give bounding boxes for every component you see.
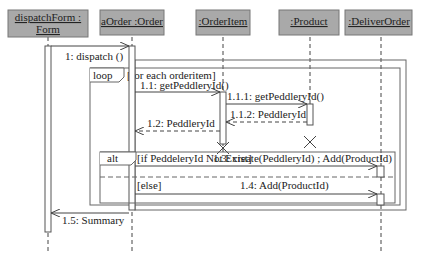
message-1-4-label: 1.4: Add(ProductId) <box>240 179 329 192</box>
destroy-product-icon <box>304 136 316 148</box>
activation-orderitem <box>220 92 226 144</box>
participant-form-label-1: dispatchForm : <box>15 11 81 23</box>
message-1-2-label: 1.2: PeddleryId <box>147 117 215 129</box>
participant-product-label: :Product <box>290 15 327 27</box>
sequence-diagram: dispatchForm : Form aOrder :Order :Order… <box>0 0 421 258</box>
message-1-1: 1.1: getPeddleryId() <box>135 79 229 92</box>
message-1-5-label: 1.5: Summary <box>62 214 125 226</box>
activation-deliver-1 <box>377 166 384 177</box>
participant-deliver-label: :DeliverOrder <box>348 15 410 27</box>
message-1-1-2: 1.1.2: PeddleryId <box>226 108 307 122</box>
participant-order: aOrder :Order <box>100 10 164 35</box>
activation-order <box>129 46 135 210</box>
alt-guard-2: [else] <box>137 179 161 191</box>
participant-orderitem: :OrderItem <box>196 10 250 35</box>
participant-form: dispatchForm : Form <box>8 10 88 37</box>
message-1-1-1-label: 1.1.1: getPeddleryId() <box>227 90 324 103</box>
message-1-3-label: 1.3: create(PeddleryId) ; Add(ProductId) <box>213 152 392 165</box>
message-1-1-1: 1.1.1: getPeddleryId() <box>226 90 324 104</box>
message-1: 1: dispatch () <box>51 46 129 63</box>
participant-deliver: :DeliverOrder <box>345 10 412 35</box>
message-1-1-2-label: 1.1.2: PeddleryId <box>230 108 307 120</box>
alt-operator: alt <box>107 152 118 164</box>
message-1-4: 1.4: Add(ProductId) <box>135 179 377 194</box>
participant-form-label-2: Form <box>36 23 60 35</box>
message-1-1-label: 1.1: getPeddleryId() <box>140 79 229 92</box>
message-1-2: 1.2: PeddleryId <box>135 117 220 131</box>
message-1-label: 1: dispatch () <box>65 50 123 63</box>
participant-order-label: aOrder :Order <box>101 15 163 27</box>
activation-form <box>45 46 51 232</box>
activation-deliver-2 <box>377 194 384 205</box>
participant-product: :Product <box>279 10 339 35</box>
participant-orderitem-label: :OrderItem <box>199 15 248 27</box>
activation-product <box>307 104 313 125</box>
message-1-5: 1.5: Summary <box>51 213 129 226</box>
loop-operator: loop <box>93 69 113 81</box>
